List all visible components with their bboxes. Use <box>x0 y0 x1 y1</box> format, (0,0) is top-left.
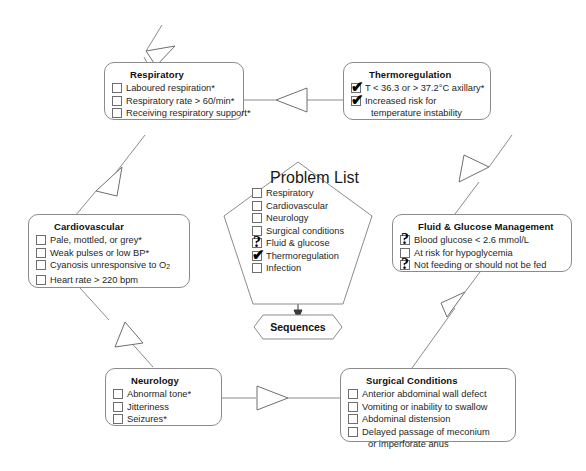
connector-cardiovascular-to-neurology <box>80 288 153 367</box>
checklist-row[interactable]: Cyanosis unresponsive to O2 <box>36 259 181 274</box>
checklist-label: Increased risk for <box>361 95 436 108</box>
checklist-label: Weak pulses or low BP* <box>46 247 149 260</box>
checklist-row[interactable]: ? Not feeding or should not be fed <box>400 259 563 272</box>
node-sequences[interactable]: Sequences <box>253 314 343 340</box>
checklist-row[interactable]: Abnormal tone* <box>113 388 213 401</box>
checklist-row[interactable]: ✔ Increased risk for <box>351 95 482 108</box>
checkbox[interactable] <box>36 235 46 245</box>
node-problem-list[interactable]: Problem List Respiratory Cardiovascular … <box>222 160 374 306</box>
checklist-row[interactable]: Weak pulses or low BP* <box>36 247 181 260</box>
node-fluid-glucose-management[interactable]: Fluid & Glucose Management ? Blood gluco… <box>392 214 572 272</box>
hollow-triangle-arrowhead-icon <box>96 167 122 196</box>
connector-neurology-to-surgical-conditions <box>222 386 340 410</box>
checklist-label: Vomiting or inability to swallow <box>358 401 488 414</box>
checklist-row[interactable]: Surgical conditions <box>252 225 359 238</box>
sequences-label: Sequences <box>253 314 343 340</box>
checkbox-checked[interactable]: ✔ <box>252 251 262 261</box>
checklist-label: Laboured respiration* <box>122 82 215 95</box>
checklist-row[interactable]: Receiving respiratory support* <box>112 107 235 120</box>
connector-respiratory-to-cardiovascular <box>70 135 145 222</box>
checklist-label: Thermoregulation <box>262 250 339 263</box>
node-neurology[interactable]: Neurology Abnormal tone* Jitteriness Sei… <box>105 368 222 426</box>
checkbox[interactable] <box>252 201 262 211</box>
checklist-row[interactable]: ? Blood glucose < 2.6 mmol/L <box>400 234 563 247</box>
hollow-triangle-arrowhead-icon <box>459 155 489 182</box>
subscript: 2 <box>166 263 170 270</box>
checkbox[interactable] <box>348 427 358 437</box>
checklist-label: Surgical conditions <box>262 225 344 238</box>
checklist-row[interactable]: Jitteriness <box>113 401 213 414</box>
checkbox[interactable] <box>113 389 123 399</box>
checklist-label: At risk for hypoglycemia <box>410 247 513 260</box>
checklist-row[interactable]: Anterior abdominal wall defect <box>348 388 507 401</box>
checklist-row[interactable]: Pale, mottled, or grey* <box>36 234 181 247</box>
checklist-row[interactable]: Neurology <box>252 212 359 225</box>
checklist-row[interactable]: Respiratory rate > 60/min* <box>112 95 235 108</box>
checklist-row[interactable]: At risk for hypoglycemia <box>400 247 563 260</box>
connector-surgical-conditions-to-fluid-glucose <box>412 256 492 368</box>
checklist-row[interactable]: Infection <box>252 262 359 275</box>
checkbox[interactable] <box>113 414 123 424</box>
node-surgical-conditions[interactable]: Surgical Conditions Anterior abdominal w… <box>340 368 516 442</box>
checklist-row-continuation: temperature instability <box>351 107 482 120</box>
hollow-triangle-arrowhead-icon <box>257 386 288 410</box>
checklist-label: Anterior abdominal wall defect <box>358 388 487 401</box>
node-title: Fluid & Glucose Management <box>418 221 563 233</box>
checkbox[interactable] <box>348 389 358 399</box>
checklist-row[interactable]: Laboured respiration* <box>112 82 235 95</box>
diagram-canvas: Respiratory Laboured respiration* Respir… <box>0 0 586 471</box>
checklist-row[interactable]: Vomiting or inability to swallow <box>348 401 507 414</box>
checklist-label: Fluid & glucose <box>262 237 330 250</box>
node-cardiovascular[interactable]: Cardiovascular Pale, mottled, or grey* W… <box>28 214 190 288</box>
checklist-row[interactable]: Heart rate > 220 bpm <box>36 274 181 287</box>
node-title: Problem List <box>270 169 359 187</box>
checklist-row[interactable]: ✔ T < 36.3 or > 37.2°C axillary* <box>351 82 482 95</box>
checkbox[interactable] <box>112 108 122 118</box>
node-title: Cardiovascular <box>54 221 181 233</box>
checkbox[interactable] <box>348 402 358 412</box>
checklist-label: T < 36.3 or > 37.2°C axillary* <box>361 82 484 95</box>
checkbox[interactable] <box>112 83 122 93</box>
check-mark-icon: ✔ <box>252 248 265 263</box>
checkbox[interactable] <box>113 402 123 412</box>
hollow-triangle-arrowhead-icon <box>115 322 143 347</box>
checkbox[interactable] <box>36 275 46 285</box>
checkbox[interactable] <box>348 414 358 424</box>
checklist-label: Cyanosis unresponsive to O2 <box>46 259 170 274</box>
node-title: Neurology <box>131 375 213 387</box>
checklist-row[interactable]: Abdominal distension <box>348 413 507 426</box>
connector-fluid-glucose-to-thermoregulation <box>455 135 512 214</box>
checklist-label: Heart rate > 220 bpm <box>46 274 138 287</box>
node-title: Thermoregulation <box>369 69 482 81</box>
checklist-row[interactable]: Seizures* <box>113 413 213 426</box>
checklist-row[interactable]: ? Fluid & glucose <box>252 237 359 250</box>
checklist-label: Abnormal tone* <box>123 388 191 401</box>
checkbox-question[interactable]: ? <box>400 260 410 270</box>
check-mark-icon: ✔ <box>351 93 364 108</box>
checklist-label-continuation: or imperforate anus <box>348 438 449 451</box>
node-thermoregulation[interactable]: Thermoregulation ✔ T < 36.3 or > 37.2°C … <box>343 62 491 120</box>
checkbox[interactable] <box>36 260 46 270</box>
checklist-label: Delayed passage of meconium <box>358 426 490 439</box>
checklist-label: Pale, mottled, or grey* <box>46 234 142 247</box>
hollow-triangle-arrowhead-icon <box>276 88 307 112</box>
checklist-row[interactable]: Respiratory <box>252 187 359 200</box>
checklist-row[interactable]: Cardiovascular <box>252 200 359 213</box>
checklist-row[interactable]: ✔ Thermoregulation <box>252 250 359 263</box>
node-respiratory[interactable]: Respiratory Laboured respiration* Respir… <box>104 62 244 120</box>
checkbox[interactable] <box>252 188 262 198</box>
checklist-label: Respiratory <box>262 187 314 200</box>
checklist-label-continuation: temperature instability <box>351 107 462 120</box>
checkbox[interactable] <box>252 263 262 273</box>
question-mark-icon: ? <box>401 231 409 246</box>
checklist-label: Blood glucose < 2.6 mmol/L <box>410 234 529 247</box>
checklist-label: Receiving respiratory support* <box>122 107 251 120</box>
checkbox[interactable] <box>252 213 262 223</box>
checklist-row[interactable]: Delayed passage of meconium <box>348 426 507 439</box>
checkbox-question[interactable]: ? <box>400 235 410 245</box>
checklist-label: Neurology <box>262 212 308 225</box>
checklist-label: Seizures* <box>123 413 167 426</box>
checkbox-checked[interactable]: ✔ <box>351 96 361 106</box>
checkbox[interactable] <box>36 248 46 258</box>
checkbox[interactable] <box>112 96 122 106</box>
